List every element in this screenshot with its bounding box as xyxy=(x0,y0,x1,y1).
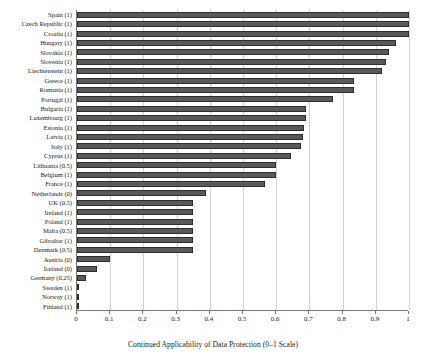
x-tick-label: 0.1 xyxy=(97,315,121,323)
bar-row xyxy=(77,170,409,179)
x-tick-mark xyxy=(375,311,376,314)
y-axis-label: Germany (0.25) xyxy=(0,273,72,282)
bar xyxy=(77,21,409,27)
y-axis-label: Sweden (1) xyxy=(0,283,72,292)
bar-row xyxy=(77,132,409,141)
bar xyxy=(77,40,396,46)
bar-row xyxy=(77,29,409,38)
x-tick-label: 1 xyxy=(396,315,420,323)
y-axis-label: Lithuania (0.5) xyxy=(0,161,72,170)
bar-row xyxy=(77,273,409,282)
x-axis-title: Continued Applicability of Data Protecti… xyxy=(0,340,426,349)
bar xyxy=(77,49,389,55)
bar-row xyxy=(77,198,409,207)
x-tick-mark xyxy=(408,311,409,314)
bar-row xyxy=(77,66,409,75)
x-tick-label: 0.4 xyxy=(197,315,221,323)
bar xyxy=(77,59,386,65)
bar xyxy=(77,284,79,290)
bar xyxy=(77,96,333,102)
y-axis-label: Denmark (0.5) xyxy=(0,245,72,254)
x-tick-label: 0.5 xyxy=(230,315,254,323)
y-axis-label: Austria (0) xyxy=(0,255,72,264)
x-tick-label: 0.7 xyxy=(296,315,320,323)
bar xyxy=(77,153,291,159)
bar xyxy=(77,303,79,309)
bar xyxy=(77,228,193,234)
x-tick-mark xyxy=(142,311,143,314)
y-axis-label: France (1) xyxy=(0,179,72,188)
bar-row xyxy=(77,38,409,47)
bar-row xyxy=(77,85,409,94)
bar-row xyxy=(77,19,409,28)
x-tick-mark xyxy=(109,311,110,314)
plot-area xyxy=(76,10,408,311)
bar-row xyxy=(77,283,409,292)
x-tick-label: 0.2 xyxy=(130,315,154,323)
bar-row xyxy=(77,104,409,113)
bar-row xyxy=(77,179,409,188)
y-axis-label: Estonia (1) xyxy=(0,123,72,132)
y-axis-label: Italy (1) xyxy=(0,142,72,151)
bar-chart: Spain (1)Czech Republic (1)Croatia (1)Hu… xyxy=(0,0,426,361)
bar-row xyxy=(77,76,409,85)
y-axis-label: UK (0.5) xyxy=(0,198,72,207)
y-axis-label: Cyprus (1) xyxy=(0,151,72,160)
bar-row xyxy=(77,10,409,19)
bar xyxy=(77,172,276,178)
y-axis-label: Iceland (0) xyxy=(0,264,72,273)
bar xyxy=(77,209,193,215)
bar xyxy=(77,12,409,18)
bar-row xyxy=(77,264,409,273)
y-axis-label: Belgium (1) xyxy=(0,170,72,179)
x-tick-mark xyxy=(242,311,243,314)
y-axis-label: Norway (1) xyxy=(0,292,72,301)
y-axis-label: Romania (1) xyxy=(0,85,72,94)
x-tick-mark xyxy=(176,311,177,314)
bar xyxy=(77,256,110,262)
bar xyxy=(77,162,276,168)
bar xyxy=(77,31,409,37)
x-tick-label: 0.6 xyxy=(263,315,287,323)
y-axis-label: Czech Republic (1) xyxy=(0,19,72,28)
y-axis-label: Slovenia (1) xyxy=(0,57,72,66)
x-tick-mark xyxy=(308,311,309,314)
bar xyxy=(77,125,304,131)
y-axis-label: Greece (1) xyxy=(0,76,72,85)
x-tick-label: 0.8 xyxy=(330,315,354,323)
bar xyxy=(77,219,193,225)
y-axis-label: Croatia (1) xyxy=(0,29,72,38)
bar-row xyxy=(77,302,409,311)
bar-row xyxy=(77,161,409,170)
y-axis-labels: Spain (1)Czech Republic (1)Croatia (1)Hu… xyxy=(0,10,72,311)
bar xyxy=(77,190,206,196)
gridline xyxy=(409,10,410,310)
x-tick-mark xyxy=(342,311,343,314)
bar xyxy=(77,143,301,149)
bar xyxy=(77,181,265,187)
x-tick-mark xyxy=(76,311,77,314)
bar-row xyxy=(77,95,409,104)
y-axis-label: Spain (1) xyxy=(0,10,72,19)
bar xyxy=(77,87,354,93)
y-axis-label: Bulgaria (1) xyxy=(0,104,72,113)
bar-row xyxy=(77,151,409,160)
bar-rows xyxy=(77,10,408,310)
y-axis-label: Malta (0.5) xyxy=(0,226,72,235)
bar xyxy=(77,106,306,112)
bar-row xyxy=(77,245,409,254)
y-axis-label: Poland (1) xyxy=(0,217,72,226)
x-tick-mark xyxy=(275,311,276,314)
bar xyxy=(77,78,354,84)
bar-row xyxy=(77,226,409,235)
y-axis-label: Finland (1) xyxy=(0,302,72,311)
bar-row xyxy=(77,142,409,151)
bar xyxy=(77,68,382,74)
y-axis-label: Portugal (1) xyxy=(0,95,72,104)
y-axis-label: Ireland (1) xyxy=(0,208,72,217)
bar xyxy=(77,294,79,300)
bar-row xyxy=(77,189,409,198)
bar-row xyxy=(77,113,409,122)
y-axis-label: Netherlands (0) xyxy=(0,189,72,198)
bar xyxy=(77,237,193,243)
